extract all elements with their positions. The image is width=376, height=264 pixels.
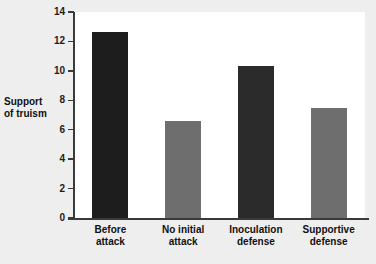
x-axis-label-line: Inoculation <box>220 224 293 236</box>
y-tick-label: 10 <box>43 66 65 76</box>
x-axis-label-line: defense <box>292 236 365 248</box>
y-axis-title: Support of truism <box>4 96 66 119</box>
x-axis-label-line: Before <box>74 224 147 236</box>
x-axis-label: No initialattack <box>147 224 220 247</box>
y-axis-title-line1: Support <box>4 96 66 108</box>
x-axis-label: Beforeattack <box>74 224 147 247</box>
bar <box>165 121 201 218</box>
x-axis-label: Inoculationdefense <box>220 224 293 247</box>
y-tick-label: 14 <box>43 7 65 17</box>
x-axis-label-line: attack <box>147 236 220 248</box>
x-axis-label-line: attack <box>74 236 147 248</box>
y-tick-label: 0 <box>43 213 65 223</box>
y-tick-label: 6 <box>43 125 65 135</box>
x-axis-label-line: Supportive <box>292 224 365 236</box>
bar <box>311 108 347 218</box>
bar-chart-figure: 02468101214 BeforeattackNo initialattack… <box>0 0 376 264</box>
bars-layer <box>74 12 365 218</box>
y-tick-label: 2 <box>43 184 65 194</box>
y-axis-title-line2: of truism <box>4 108 66 120</box>
y-tick-label: 12 <box>43 36 65 46</box>
bar <box>92 32 128 218</box>
x-axis-label: Supportivedefense <box>292 224 365 247</box>
x-axis-line <box>68 218 369 220</box>
x-axis-label-line: defense <box>220 236 293 248</box>
y-tick-label: 4 <box>43 154 65 164</box>
x-axis-label-line: No initial <box>147 224 220 236</box>
bar <box>238 66 274 218</box>
